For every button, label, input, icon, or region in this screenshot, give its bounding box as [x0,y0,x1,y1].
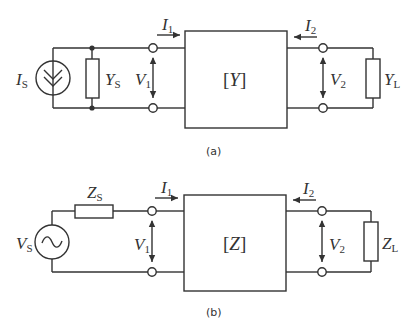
source-admittance-resistor-icon [86,59,99,98]
load-admittance-resistor-icon [366,59,380,98]
port1-voltage-label: V1 [134,235,150,255]
port2-current-label: I2 [302,179,314,199]
load-impedance-resistor-icon [364,222,378,261]
panel-a-y-parameters: IS YS V1 I1 [Y] I2 V2 YL (a) [15,15,400,158]
port1-terminal-bottom [148,268,156,276]
port1-current-label: I1 [161,15,173,35]
junction-dot [89,45,94,50]
port1-terminal-top [149,44,157,52]
port2-terminal-top [319,44,327,52]
port2-terminal-top [318,207,326,215]
port1-voltage-label: V1 [135,70,151,90]
current-source-icon [36,61,70,95]
panel-b-caption: (b) [206,306,222,319]
junction-dot [89,105,94,110]
port2-voltage-label: V2 [330,70,346,90]
source-impedance-label: ZS [87,183,103,203]
panel-b-z-parameters: VS ZS V1 I1 [Z] I2 V2 ZL (b) [16,178,398,319]
port1-current-label: I1 [160,178,172,198]
source-current-label: IS [15,70,28,90]
port1-terminal-bottom [149,104,157,112]
y-network-label: [Y] [223,69,246,90]
panel-b-wires [52,211,371,272]
panel-a-caption: (a) [206,145,221,158]
load-impedance-label: ZL [382,234,398,254]
port2-current-label: I2 [304,16,316,36]
port2-voltage-label: V2 [329,235,345,255]
source-impedance-resistor-icon [75,205,113,218]
source-voltage-label: VS [16,234,33,254]
ac-voltage-source-icon [35,225,69,259]
panel-a-wires [53,48,373,108]
port2-terminal-bottom [318,268,326,276]
load-admittance-label: YL [384,70,400,90]
port2-terminal-bottom [319,104,327,112]
two-port-diagram: IS YS V1 I1 [Y] I2 V2 YL (a) [0,0,415,328]
z-network-label: [Z] [223,233,246,254]
port1-terminal-top [148,207,156,215]
source-admittance-label: YS [105,70,121,90]
